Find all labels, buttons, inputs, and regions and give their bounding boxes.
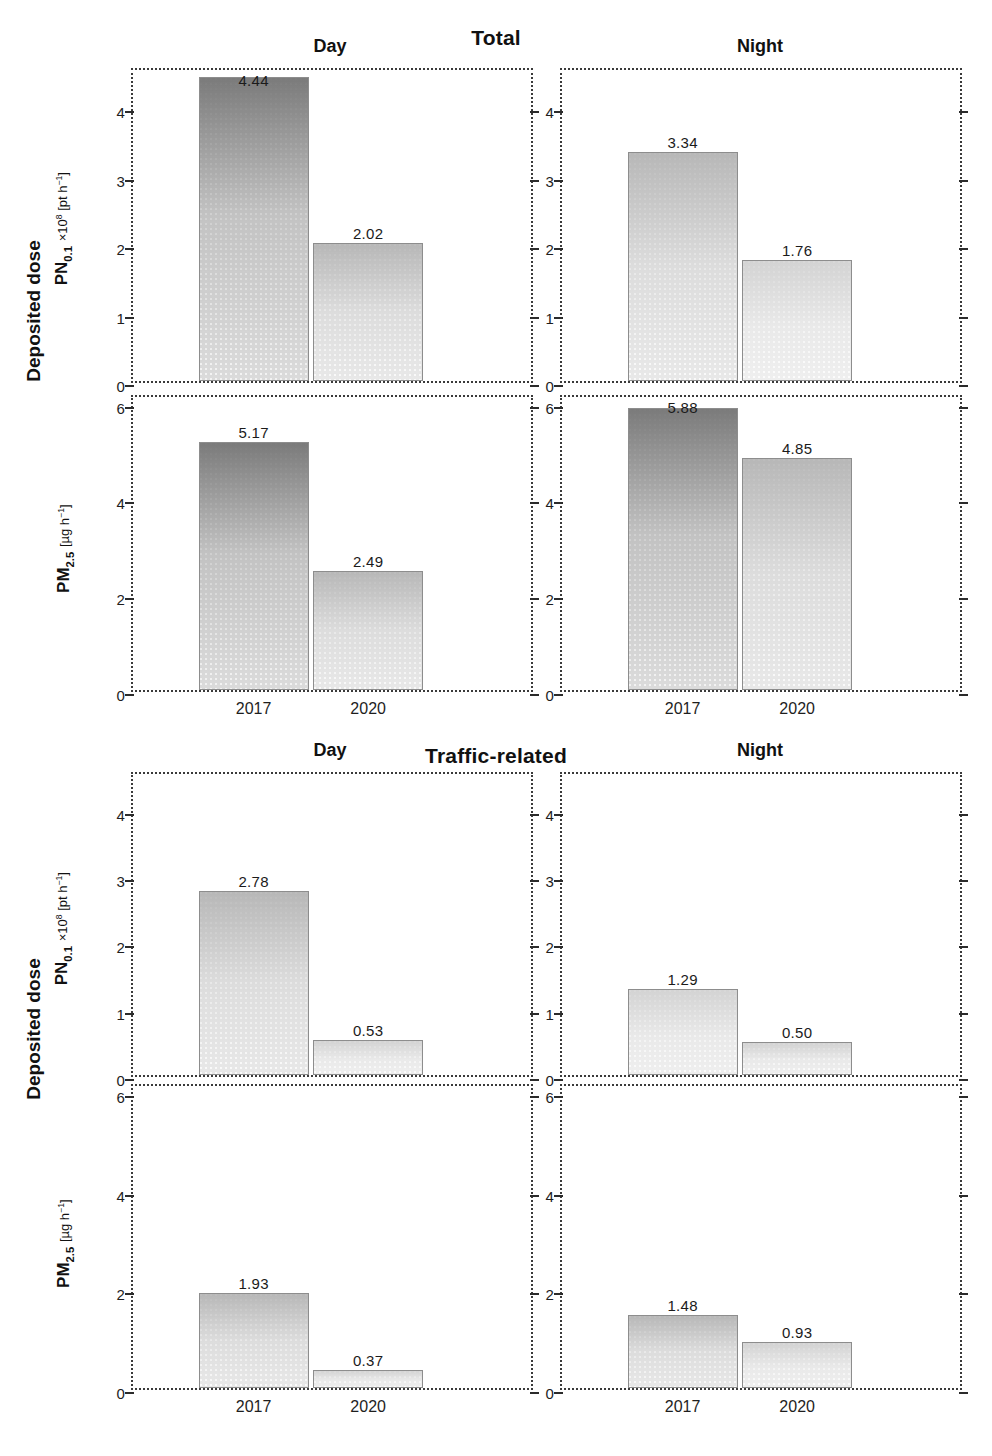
y-axis-tick: 0 bbox=[125, 1392, 134, 1394]
bar-value-label: 4.85 bbox=[782, 440, 812, 457]
y-axis-tick-right bbox=[959, 880, 968, 882]
bar-total-night-pn-2017 bbox=[628, 152, 738, 381]
x-axis-tick-label: 2020 bbox=[350, 1398, 386, 1416]
y-axis-tick: 2 bbox=[554, 946, 563, 948]
y-axis-tick-label: 2 bbox=[545, 241, 553, 258]
y-axis-tick-right bbox=[530, 1096, 539, 1098]
bar-total-day-pn-2017 bbox=[199, 77, 309, 381]
y-axis-tick: 1 bbox=[125, 317, 134, 319]
bar-value-label: 2.49 bbox=[353, 553, 383, 570]
y-axis-tick: 0 bbox=[554, 694, 563, 696]
y-axis-tick: 6 bbox=[125, 407, 134, 409]
bar-value-label: 5.88 bbox=[667, 399, 697, 416]
y-axis-tick: 0 bbox=[125, 1079, 134, 1081]
bar-value-label: 1.93 bbox=[238, 1275, 268, 1292]
x-axis-tick-label: 2020 bbox=[779, 700, 815, 718]
y-axis-tick: 1 bbox=[554, 1013, 563, 1015]
y-axis-tick: 3 bbox=[125, 880, 134, 882]
y-axis-tick: 4 bbox=[554, 502, 563, 504]
y-axis-tick-right bbox=[959, 1392, 968, 1394]
y-axis-tick-label: 6 bbox=[545, 1089, 553, 1106]
y-axis-title-traffic-pn: PN0.1 ×108 [pt h−1] bbox=[52, 804, 73, 1054]
bar-value-label: 0.93 bbox=[782, 1324, 812, 1341]
bar-value-label: 1.29 bbox=[667, 971, 697, 988]
bar-total-day-pn-2020 bbox=[313, 243, 423, 381]
y-axis-tick: 2 bbox=[554, 248, 563, 250]
bar-value-label: 4.44 bbox=[238, 72, 268, 89]
y-axis-tick: 2 bbox=[125, 1293, 134, 1295]
column-header-day-total: Day bbox=[130, 36, 530, 57]
bar-traffic-related-night-pn-2017 bbox=[628, 989, 738, 1075]
bar-value-label: 5.17 bbox=[238, 424, 268, 441]
bar-total-day-pm-2020 bbox=[313, 571, 423, 690]
y-axis-group-label-total: Deposited dose bbox=[23, 181, 45, 441]
section-traffic-related: Traffic-related Deposited dose Day Night… bbox=[0, 718, 992, 1456]
y-axis-tick-right bbox=[959, 317, 968, 319]
y-axis-tick-right bbox=[959, 1195, 968, 1197]
bar-value-label: 1.76 bbox=[782, 242, 812, 259]
y-axis-tick-label: 4 bbox=[116, 104, 124, 121]
panel-total-night-pm: 02465.884.8520172020 bbox=[560, 395, 962, 692]
bar-total-night-pn-2020 bbox=[742, 260, 852, 381]
y-axis-tick-label: 2 bbox=[116, 591, 124, 608]
y-axis-tick-label: 0 bbox=[116, 1385, 124, 1402]
bar-value-label: 0.37 bbox=[353, 1352, 383, 1369]
y-axis-tick-label: 4 bbox=[545, 807, 553, 824]
y-axis-tick: 6 bbox=[554, 407, 563, 409]
panel-traffic-day-pm: 02461.930.3720172020 bbox=[131, 1084, 533, 1390]
x-axis-tick-label: 2020 bbox=[350, 700, 386, 718]
plot-area: 012343.341.76 bbox=[562, 70, 960, 381]
y-axis-tick: 1 bbox=[554, 317, 563, 319]
y-axis-tick: 0 bbox=[554, 1392, 563, 1394]
y-axis-tick-right bbox=[530, 248, 539, 250]
y-axis-tick: 0 bbox=[554, 385, 563, 387]
y-axis-title-traffic-pm: PM2.5 [µg h−1] bbox=[54, 1144, 75, 1344]
panel-traffic-night-pn: 012341.290.50 bbox=[560, 772, 962, 1077]
y-axis-tick-right bbox=[959, 1079, 968, 1081]
y-axis-tick-label: 1 bbox=[116, 1006, 124, 1023]
y-axis-tick-right bbox=[959, 407, 968, 409]
y-axis-tick-label: 6 bbox=[116, 1089, 124, 1106]
y-axis-tick-label: 3 bbox=[545, 873, 553, 890]
y-axis-tick-label: 2 bbox=[116, 241, 124, 258]
panel-traffic-day-pn: 012342.780.53 bbox=[131, 772, 533, 1077]
panel-total-day-pm: 02465.172.4920172020 bbox=[131, 395, 533, 692]
y-axis-tick-right bbox=[959, 1013, 968, 1015]
y-axis-tick-label: 6 bbox=[116, 400, 124, 417]
y-axis-tick-right bbox=[530, 502, 539, 504]
column-header-night-traffic: Night bbox=[560, 740, 960, 761]
y-axis-tick-label: 2 bbox=[545, 591, 553, 608]
y-axis-tick-label: 0 bbox=[116, 1072, 124, 1089]
y-axis-tick-label: 2 bbox=[116, 1286, 124, 1303]
y-axis-tick: 0 bbox=[125, 694, 134, 696]
y-axis-tick: 4 bbox=[125, 502, 134, 504]
y-axis-tick-right bbox=[530, 385, 539, 387]
y-axis-tick-right bbox=[959, 814, 968, 816]
y-axis-tick-right bbox=[530, 1079, 539, 1081]
x-axis-tick-label: 2017 bbox=[236, 1398, 272, 1416]
y-axis-tick: 4 bbox=[125, 1195, 134, 1197]
y-axis-tick: 4 bbox=[554, 111, 563, 113]
y-axis-tick-right bbox=[530, 694, 539, 696]
bar-traffic-related-day-pn-2020 bbox=[313, 1040, 423, 1075]
y-axis-tick-label: 3 bbox=[116, 873, 124, 890]
y-axis-title-total-pm: PM2.5 [µg h−1] bbox=[54, 449, 75, 649]
y-axis-tick-right bbox=[530, 1195, 539, 1197]
plot-area: 02465.172.4920172020 bbox=[133, 397, 531, 690]
y-axis-tick: 2 bbox=[125, 946, 134, 948]
bar-value-label: 1.48 bbox=[667, 1297, 697, 1314]
y-axis-tick-right bbox=[530, 1392, 539, 1394]
y-axis-tick-right bbox=[530, 1293, 539, 1295]
y-axis-tick: 3 bbox=[554, 880, 563, 882]
panel-total-night-pn: 012343.341.76 bbox=[560, 68, 962, 383]
y-axis-title-total-pn: PN0.1 ×108 [pt h−1] bbox=[52, 104, 73, 354]
y-axis-tick: 0 bbox=[554, 1079, 563, 1081]
bar-total-night-pm-2017 bbox=[628, 408, 738, 690]
y-axis-tick: 6 bbox=[554, 1096, 563, 1098]
y-axis-tick-label: 4 bbox=[116, 1188, 124, 1205]
bar-traffic-related-day-pn-2017 bbox=[199, 891, 309, 1075]
panel-traffic-night-pm: 02461.480.9320172020 bbox=[560, 1084, 962, 1390]
y-axis-tick-right bbox=[530, 814, 539, 816]
plot-area: 02461.930.3720172020 bbox=[133, 1086, 531, 1388]
y-axis-tick: 3 bbox=[125, 180, 134, 182]
